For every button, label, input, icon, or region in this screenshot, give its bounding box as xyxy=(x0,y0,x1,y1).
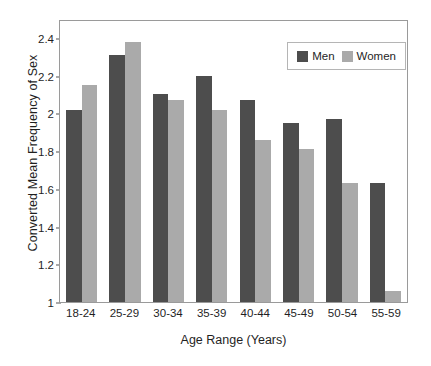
y-axis-tick-label: 2.4 xyxy=(24,33,54,44)
y-axis-tick-label: 1.2 xyxy=(24,260,54,271)
y-axis-tick-label: 1.4 xyxy=(24,222,54,233)
bar-women-50-54 xyxy=(342,183,358,302)
legend-entry-men: Men xyxy=(297,50,334,62)
legend-label: Men xyxy=(312,50,334,62)
bar-men-35-39 xyxy=(196,76,212,302)
x-axis-tick-label: 35-39 xyxy=(197,306,226,320)
x-axis-tick-label: 18-24 xyxy=(66,306,95,320)
bar-women-18-24 xyxy=(82,85,98,302)
y-axis-tick-label: 1 xyxy=(24,298,54,309)
legend-swatch-icon xyxy=(342,51,353,62)
bar-group xyxy=(153,21,184,302)
y-axis-tick-label: 2.2 xyxy=(24,71,54,82)
bar-men-55-59 xyxy=(370,183,386,302)
x-axis-tick-labels: 18-2425-2930-3435-3940-4445-4950-5455-59 xyxy=(59,306,408,322)
chart-figure: Converted Mean Frequency of Sex 11.21.41… xyxy=(0,0,431,366)
legend-label: Women xyxy=(357,50,396,62)
legend-swatch-icon xyxy=(297,51,308,62)
x-axis-tick-label: 40-44 xyxy=(241,306,270,320)
y-axis-tick-label: 1.6 xyxy=(24,184,54,195)
bar-men-40-44 xyxy=(240,100,256,302)
y-axis-tick-labels: 11.21.41.61.822.22.4 xyxy=(24,43,54,303)
bar-men-50-54 xyxy=(326,119,342,302)
x-axis-title: Age Range (Years) xyxy=(59,332,408,348)
bar-women-45-49 xyxy=(299,149,315,302)
bar-women-55-59 xyxy=(385,291,401,302)
bar-group xyxy=(196,21,227,302)
x-axis-tick-label: 55-59 xyxy=(371,306,400,320)
bar-men-30-34 xyxy=(153,94,169,302)
x-axis-tick-label: 45-49 xyxy=(284,306,313,320)
bar-men-25-29 xyxy=(109,55,125,302)
x-axis-tick-label: 50-54 xyxy=(328,306,357,320)
y-axis-tick-label: 2 xyxy=(24,109,54,120)
bar-group xyxy=(66,21,97,302)
x-axis-tick-label: 30-34 xyxy=(153,306,182,320)
plot-area: MenWomen xyxy=(59,20,408,303)
chart-legend: MenWomen xyxy=(287,42,406,70)
y-axis-tick-label: 1.8 xyxy=(24,147,54,158)
legend-entry-women: Women xyxy=(342,50,396,62)
bar-group xyxy=(109,21,140,302)
x-axis-tick-label: 25-29 xyxy=(110,306,139,320)
bar-women-30-34 xyxy=(168,100,184,302)
bar-men-45-49 xyxy=(283,123,299,302)
bar-group xyxy=(240,21,271,302)
bar-women-40-44 xyxy=(255,140,271,302)
bar-women-25-29 xyxy=(125,42,141,302)
bar-women-35-39 xyxy=(212,110,228,302)
bar-men-18-24 xyxy=(66,110,82,302)
